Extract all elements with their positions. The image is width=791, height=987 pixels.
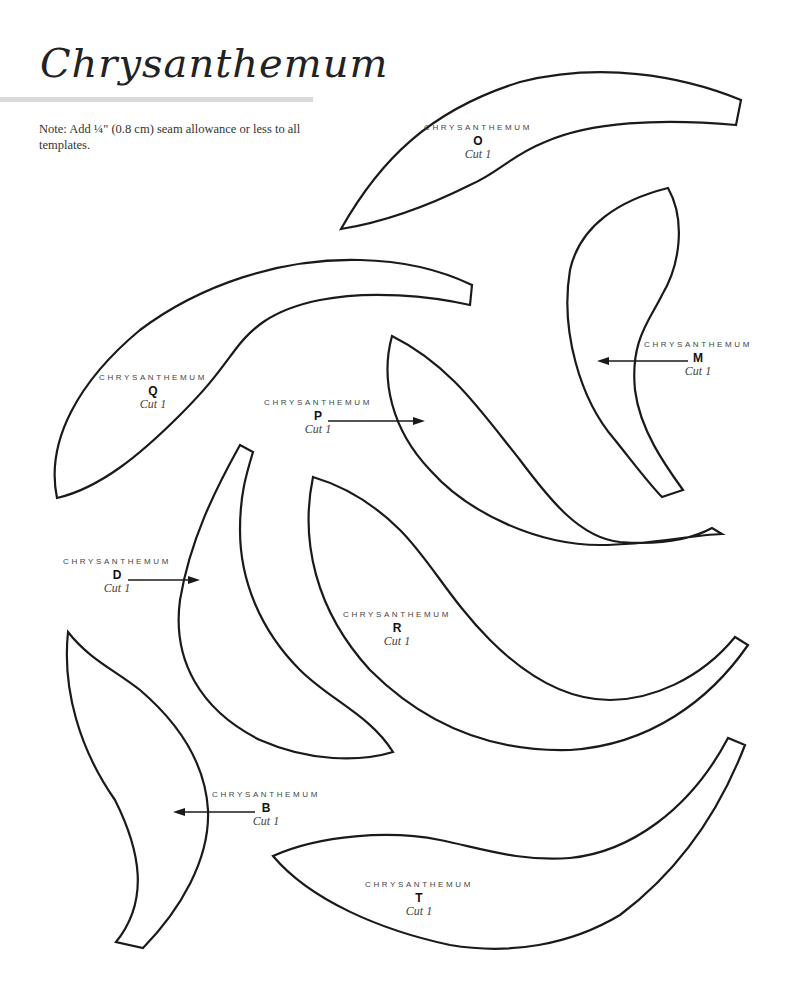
cut-count: Cut 1 [63,581,171,595]
template-name: CHRYSANTHEMUM [365,880,473,889]
template-t-label: CHRYSANTHEMUM T Cut 1 [365,880,473,918]
template-name: CHRYSANTHEMUM [343,610,451,619]
template-o-outline [341,72,741,229]
template-name: CHRYSANTHEMUM [264,398,372,407]
template-letter: D [63,569,171,581]
template-letter: O [424,135,532,147]
template-letter: M [644,352,752,364]
template-letter: Q [99,385,207,397]
template-letter: P [264,410,372,422]
template-r-label: CHRYSANTHEMUM R Cut 1 [343,610,451,648]
template-q-label: CHRYSANTHEMUM Q Cut 1 [99,373,207,411]
template-m-label: CHRYSANTHEMUM M Cut 1 [644,340,752,378]
template-name: CHRYSANTHEMUM [212,790,320,799]
template-b-outline [67,632,208,948]
template-p-label: CHRYSANTHEMUM P Cut 1 [264,398,372,436]
template-letter: T [365,892,473,904]
cut-count: Cut 1 [343,634,451,648]
cut-count: Cut 1 [365,904,473,918]
template-o-label: CHRYSANTHEMUM O Cut 1 [424,123,532,161]
template-letter: B [212,802,320,814]
cut-count: Cut 1 [212,814,320,828]
template-shapes-canvas [0,0,791,987]
cut-count: Cut 1 [424,147,532,161]
template-name: CHRYSANTHEMUM [63,557,171,566]
template-letter: R [343,622,451,634]
template-b-label: CHRYSANTHEMUM B Cut 1 [212,790,320,828]
cut-count: Cut 1 [644,364,752,378]
template-d-label: CHRYSANTHEMUM D Cut 1 [63,557,171,595]
cut-count: Cut 1 [99,397,207,411]
template-name: CHRYSANTHEMUM [99,373,207,382]
template-name: CHRYSANTHEMUM [424,123,532,132]
cut-count: Cut 1 [264,422,372,436]
template-name: CHRYSANTHEMUM [644,340,752,349]
template-t-outline [273,738,745,949]
